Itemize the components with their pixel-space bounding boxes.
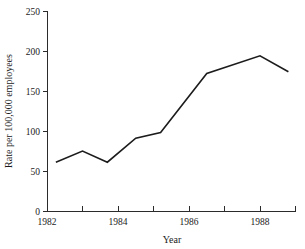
x-tick-label-1986: 1986 xyxy=(180,217,199,227)
y-axis-ticks xyxy=(43,11,47,211)
y-tick-label-200: 200 xyxy=(26,47,41,57)
y-tick-label-50: 50 xyxy=(31,167,41,177)
x-tick-label-1982: 1982 xyxy=(38,217,57,227)
y-tick-label-150: 150 xyxy=(26,87,41,97)
y-axis-title: Rate per 100,000 employees xyxy=(3,54,14,168)
y-tick-label-250: 250 xyxy=(26,7,41,17)
data-series-line xyxy=(56,56,289,162)
x-axis-title: Year xyxy=(163,234,182,245)
y-tick-label-100: 100 xyxy=(26,127,41,137)
y-tick-label-0: 0 xyxy=(35,207,40,217)
x-tick-label-1984: 1984 xyxy=(109,217,128,227)
chart-figure: 250 200 150 100 50 0 1982 1984 1986 1988… xyxy=(0,0,305,249)
x-axis-ticks xyxy=(47,206,296,211)
x-tick-label-1988: 1988 xyxy=(251,217,270,227)
line-chart: 250 200 150 100 50 0 1982 1984 1986 1988… xyxy=(0,0,305,249)
